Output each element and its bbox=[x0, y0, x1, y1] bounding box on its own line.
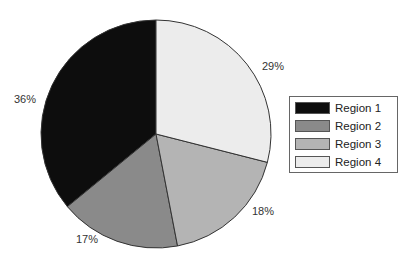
slice-label-region-2: 17% bbox=[76, 233, 98, 245]
legend-label: Region 3 bbox=[335, 137, 381, 151]
legend-label: Region 4 bbox=[335, 155, 381, 169]
legend-swatch bbox=[295, 120, 330, 132]
legend-label: Region 1 bbox=[335, 101, 381, 115]
legend-swatch bbox=[295, 138, 330, 150]
legend-swatch bbox=[295, 156, 330, 168]
slice-label-region-4: 29% bbox=[262, 60, 284, 72]
legend-swatch bbox=[295, 102, 330, 114]
legend: Region 1 Region 2 Region 3 Region 4 bbox=[289, 96, 398, 173]
slice-label-region-3: 18% bbox=[252, 205, 274, 217]
legend-label: Region 2 bbox=[335, 119, 381, 133]
slice-label-region-1: 36% bbox=[14, 93, 36, 105]
